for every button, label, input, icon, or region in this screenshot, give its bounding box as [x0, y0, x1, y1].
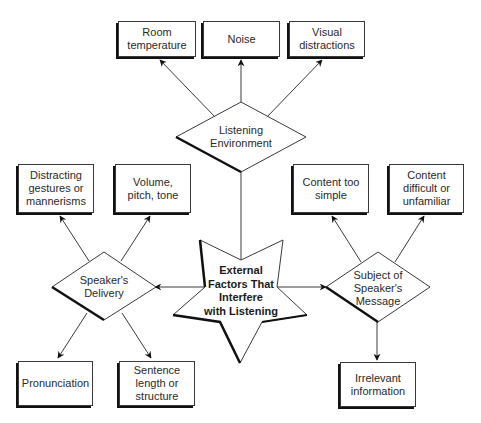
connector-message-difficult	[395, 216, 424, 262]
center-label: External Factors That Interfere with Lis…	[195, 262, 287, 320]
factor-content-difficult-text: Content difficult or unfamiliar	[403, 169, 451, 208]
factor-irrelevant-information: Irrelevant information	[340, 362, 416, 407]
factor-distracting-gestures-text: Distracting gestures or mannerisms	[26, 169, 86, 208]
connector-delivery-gestures	[60, 216, 89, 261]
factor-noise: Noise	[203, 21, 280, 57]
connector-delivery-pronunciation	[58, 313, 87, 358]
factor-volume-pitch-tone-text: Volume, pitch, tone	[128, 176, 179, 202]
factor-room-temperature-text: Room temperature	[127, 26, 186, 52]
factor-sentence-length: Sentence length or structure	[119, 361, 195, 406]
factor-visual-distractions-text: Visual distractions	[299, 26, 355, 52]
factor-volume-pitch-tone: Volume, pitch, tone	[115, 164, 191, 213]
hub-delivery-label: Speaker's Delivery	[64, 272, 144, 302]
factor-room-temperature: Room temperature	[118, 21, 196, 57]
connector-delivery-volume	[121, 216, 150, 261]
center-label-text: External Factors That Interfere with Lis…	[204, 264, 278, 318]
factor-visual-distractions: Visual distractions	[289, 21, 365, 57]
connector-delivery-sentence	[122, 313, 151, 358]
factor-content-too-simple-text: Content too simple	[303, 176, 360, 202]
connector-message-simple	[332, 216, 361, 262]
connector-environment-room-temperature	[160, 60, 216, 118]
factor-sentence-length-text: Sentence length or structure	[134, 364, 180, 403]
factor-distracting-gestures: Distracting gestures or mannerisms	[18, 164, 94, 213]
factor-content-difficult: Content difficult or unfamiliar	[389, 164, 464, 213]
hub-environment-label: Listening Environment	[196, 122, 286, 152]
hub-delivery-text: Speaker's Delivery	[80, 274, 129, 300]
hub-environment-text: Listening Environment	[210, 124, 272, 150]
factor-irrelevant-information-text: Irrelevant information	[351, 372, 405, 398]
hub-message-text: Subject of Speaker's Message	[354, 269, 403, 308]
factor-content-too-simple: Content too simple	[293, 164, 369, 213]
factor-noise-text: Noise	[227, 33, 255, 46]
factor-pronunciation: Pronunciation	[18, 361, 93, 406]
factor-pronunciation-text: Pronunciation	[22, 377, 89, 390]
hub-message-label: Subject of Speaker's Message	[338, 267, 418, 309]
connector-environment-visual	[266, 60, 322, 118]
